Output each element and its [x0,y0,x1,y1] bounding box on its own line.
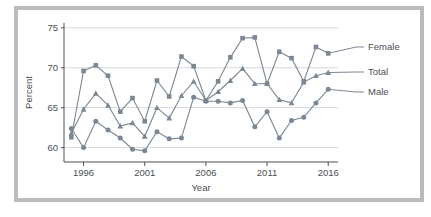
data-point [191,64,196,69]
legend-label-total: Total [368,66,388,77]
data-point [216,79,221,84]
y-tick-label: 75 [47,22,58,33]
data-series [68,35,331,153]
legend-leader-line [328,72,356,73]
data-point [265,109,270,114]
data-point [313,100,318,105]
data-point [130,96,135,101]
data-point [228,55,233,60]
data-point [301,115,306,120]
data-point [130,147,135,152]
data-point [167,94,172,99]
data-point [179,136,184,141]
x-tick-label: 2011 [257,167,277,178]
y-tick-label: 70 [47,62,58,73]
line-chart: 19962001200620112016 60657075 FemaleTota… [0,0,431,217]
legend-leader-line [328,47,356,53]
data-point [253,35,258,40]
data-point [106,73,111,78]
data-point [203,99,208,104]
y-tick-label: 65 [47,102,58,113]
data-point [155,78,160,83]
data-point [94,63,99,68]
x-tick-labels: 19962001200620112016 [73,167,339,178]
y-tick-labels: 60657075 [47,22,58,153]
data-point [240,36,245,41]
data-point [93,90,99,95]
data-point [142,119,147,124]
y-tick-label: 60 [47,142,58,153]
data-point [314,45,319,50]
data-point [240,98,245,103]
data-point [228,100,233,105]
chart-legend: FemaleTotalMale [328,41,399,97]
legend-label-male: Male [368,86,389,97]
series-male [69,87,331,154]
data-point [289,118,294,123]
data-point [252,124,257,129]
x-tick-label: 2016 [318,167,339,178]
data-point [289,56,294,61]
x-tick-label: 1996 [73,167,94,178]
data-point [277,49,282,54]
data-point [93,119,98,124]
data-point [106,128,111,133]
data-point [154,129,159,134]
data-point [69,126,74,131]
data-point [191,78,197,83]
y-axis-title: Percent [23,76,34,109]
data-point [118,136,123,141]
figure-container: 19962001200620112016 60657075 FemaleTota… [0,0,431,217]
data-point [167,136,172,141]
series-line [71,69,328,137]
data-point [277,136,282,141]
data-point [81,145,86,150]
series-female [69,35,330,139]
data-point [142,148,147,153]
data-point [118,109,123,114]
data-point [81,69,86,74]
data-point [216,99,221,104]
legend-label-female: Female [368,41,400,52]
data-point [130,120,136,125]
x-tick-label: 2006 [195,167,216,178]
data-point [191,95,196,100]
x-axis-title: Year [191,182,210,193]
x-tick-label: 2001 [134,167,155,178]
legend-leader-line [328,89,356,92]
data-point [179,54,184,59]
data-point [240,66,246,71]
chart-svg: 19962001200620112016 60657075 FemaleTota… [0,0,431,217]
